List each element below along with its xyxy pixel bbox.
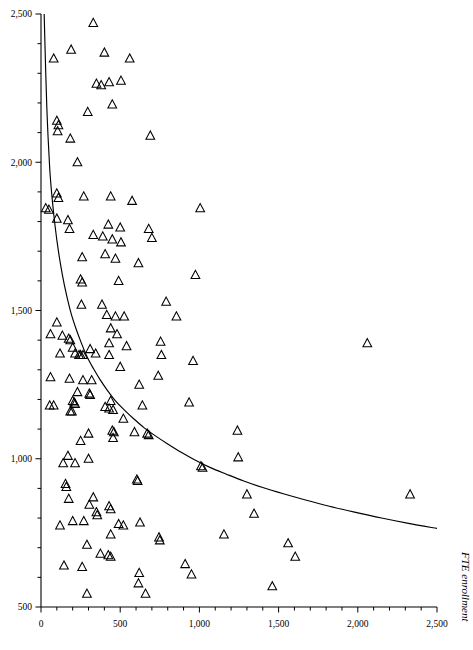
- data-point-triangle: [77, 300, 86, 308]
- data-point-triangle: [128, 196, 137, 204]
- x-axis-tick-label: 1,500: [268, 619, 290, 629]
- data-point-triangle: [116, 362, 125, 370]
- data-point-triangle: [85, 389, 94, 397]
- data-point-triangle: [120, 312, 129, 320]
- x-axis-tick-label: 1,000: [189, 619, 211, 629]
- data-point-triangle: [144, 224, 153, 232]
- data-point-triangle: [116, 223, 125, 231]
- data-point-triangle: [46, 330, 55, 338]
- data-point-triangle: [89, 18, 98, 26]
- data-point-triangle: [79, 192, 88, 200]
- data-point-triangle: [157, 350, 166, 358]
- data-point-triangle: [136, 518, 145, 526]
- data-point-triangle: [64, 494, 73, 502]
- data-point-triangle: [60, 561, 69, 569]
- data-point-triangle: [56, 521, 65, 529]
- data-point-triangle: [108, 235, 117, 243]
- data-point-triangle: [196, 204, 205, 212]
- data-point-triangle: [243, 490, 252, 498]
- data-point-triangle: [132, 475, 141, 483]
- data-point-triangle: [185, 398, 194, 406]
- data-point-triangle: [220, 530, 229, 538]
- data-point-triangle: [135, 380, 144, 388]
- data-point-triangle: [105, 78, 114, 86]
- data-point-triangle: [46, 373, 55, 381]
- y-axis-tick-label: 1,500: [11, 306, 33, 316]
- data-point-triangle: [84, 454, 93, 462]
- data-point-triangle: [96, 549, 105, 557]
- data-point-triangle: [65, 374, 74, 382]
- data-point-triangle: [78, 253, 87, 261]
- data-point-triangle: [79, 516, 88, 524]
- chart-figure: 05001,0001,5002,0002,5005001,0001,5002,0…: [0, 0, 473, 650]
- data-point-triangle: [89, 230, 98, 238]
- data-point-triangle: [130, 427, 139, 435]
- data-point-triangle: [106, 505, 115, 513]
- data-point-triangle: [284, 539, 293, 547]
- data-point-triangle: [86, 344, 95, 352]
- y-axis-tick-label: 2,000: [11, 158, 33, 168]
- data-point-triangle: [111, 312, 120, 320]
- data-point-triangle: [191, 270, 200, 278]
- x-axis-tick-label: 500: [113, 619, 128, 629]
- data-point-triangle: [102, 310, 111, 318]
- data-point-triangle: [101, 250, 110, 258]
- data-point-triangle: [98, 300, 107, 308]
- y-axis-tick-label: 500: [18, 602, 33, 612]
- data-point-triangle: [141, 589, 150, 597]
- data-point-triangle: [65, 224, 74, 232]
- data-point-triangle: [73, 158, 82, 166]
- scatter-plot: 05001,0001,5002,0002,5005001,0001,5002,0…: [0, 0, 473, 650]
- data-point-triangle: [172, 312, 181, 320]
- data-point-triangle: [134, 258, 143, 266]
- data-point-triangle: [234, 453, 243, 461]
- data-point-triangle: [125, 54, 134, 62]
- data-point-triangle: [156, 337, 165, 345]
- data-point-triangle: [78, 562, 87, 570]
- data-point-triangle: [104, 220, 113, 228]
- data-point-triangle: [83, 540, 92, 548]
- x-axis-tick-label: 2,500: [426, 619, 448, 629]
- fit-curve-path: [44, 14, 437, 528]
- data-point-triangle: [106, 192, 115, 200]
- data-point-triangle: [105, 339, 114, 347]
- data-point-triangle: [162, 297, 171, 305]
- x-axis-tick-label: 2,000: [347, 619, 369, 629]
- data-point-triangle: [64, 215, 73, 223]
- axis-title-group: FTE enrollment: [460, 551, 472, 622]
- data-point-triangle: [49, 54, 58, 62]
- data-point-triangle: [181, 559, 190, 567]
- data-point-triangle: [83, 107, 92, 115]
- data-points-group: [41, 18, 414, 597]
- data-point-triangle: [64, 451, 73, 459]
- data-point-triangle: [106, 324, 115, 332]
- data-point-triangle: [134, 579, 143, 587]
- data-point-triangle: [146, 131, 155, 139]
- data-point-triangle: [406, 490, 415, 498]
- data-point-triangle: [66, 134, 75, 142]
- data-point-triangle: [154, 371, 163, 379]
- data-point-triangle: [84, 429, 93, 437]
- data-point-triangle: [73, 387, 82, 395]
- data-point-triangle: [89, 493, 98, 501]
- data-point-triangle: [135, 568, 144, 576]
- data-point-triangle: [56, 349, 65, 357]
- data-point-triangle: [114, 276, 123, 284]
- data-point-triangle: [111, 254, 120, 262]
- data-point-triangle: [363, 339, 372, 347]
- data-point-triangle: [100, 48, 109, 56]
- data-point-triangle: [291, 552, 300, 560]
- data-point-triangle: [106, 530, 115, 538]
- fit-curve-group: [44, 14, 437, 528]
- data-point-triangle: [52, 318, 61, 326]
- data-point-triangle: [98, 232, 107, 240]
- data-point-triangle: [233, 426, 242, 434]
- data-point-triangle: [67, 45, 76, 53]
- data-point-triangle: [106, 396, 115, 404]
- data-point-triangle: [117, 76, 126, 84]
- data-point-triangle: [119, 414, 128, 422]
- x-axis-tick-label: 0: [39, 619, 44, 629]
- data-point-triangle: [189, 356, 198, 364]
- data-point-triangle: [122, 341, 131, 349]
- data-point-triangle: [268, 582, 277, 590]
